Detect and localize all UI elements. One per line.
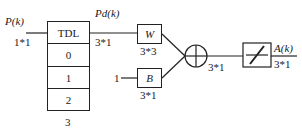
- delayed-label: Pd(k): [95, 8, 119, 19]
- output-dims: 3*1: [274, 59, 291, 70]
- tdl-cell-2: 2: [47, 88, 90, 111]
- delayed-dims: 3*1: [95, 37, 112, 48]
- tdl-count: 3: [65, 117, 71, 128]
- tdl-cell-1: 1: [47, 66, 90, 89]
- sum-dims: 3*1: [208, 62, 225, 73]
- tdl-cell-0: 0: [47, 43, 90, 67]
- bias-input: 1: [114, 73, 120, 84]
- diagram-lines: [0, 0, 302, 133]
- input-dims: 1*1: [14, 37, 31, 48]
- weight-block: W: [137, 24, 162, 44]
- weight-dims: 3*3: [140, 46, 157, 57]
- bias-block: B: [137, 68, 162, 88]
- tdl-block: TDL: [47, 21, 90, 44]
- output-label: A(k): [274, 43, 293, 54]
- bias-dims: 3*1: [140, 90, 157, 101]
- input-label: P(k): [5, 16, 24, 27]
